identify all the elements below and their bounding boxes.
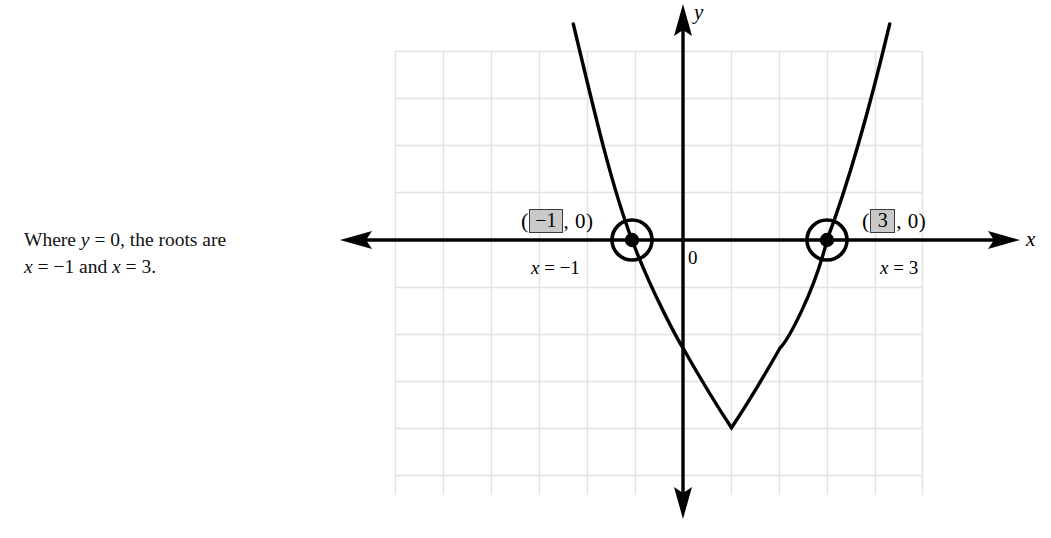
- figure-container: Where y = 0, the roots are x = −1 and x …: [0, 0, 1051, 538]
- equation-left-value: = −1: [539, 257, 579, 278]
- point-label-left-root: ( −1 , 0): [521, 209, 594, 233]
- highlight-box-left-root-value[interactable]: −1: [529, 209, 562, 233]
- y-axis-label: y: [694, 2, 703, 23]
- equation-label-left-root: x = −1: [531, 258, 580, 277]
- left-paren-rest: , 0): [564, 211, 594, 232]
- left-paren-open: (: [521, 210, 528, 232]
- grid-horizontal-lines: [395, 52, 922, 476]
- point-label-right-root: ( 3 , 0): [862, 209, 926, 233]
- x-axis-label: x: [1026, 229, 1035, 250]
- highlight-box-right-root-value[interactable]: 3: [870, 209, 895, 233]
- equation-label-right-root: x = 3: [880, 258, 918, 277]
- x-axis: [340, 231, 1020, 249]
- origin-label: 0: [688, 248, 698, 267]
- equation-right-value: = 3: [888, 257, 918, 278]
- right-paren-rest: , 0): [896, 211, 926, 232]
- right-paren-open: (: [862, 210, 869, 232]
